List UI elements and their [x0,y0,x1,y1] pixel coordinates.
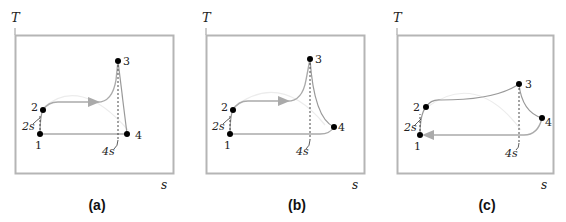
x-axis-label: s [352,178,358,192]
point-1-label: 1 [224,140,231,151]
panel-a: T s 1 2 3 4 2s 4s (a) [0,0,190,222]
point-1-label: 1 [414,141,421,152]
annotation-2s: 2s [404,122,417,133]
caption-a: (a) [82,197,112,213]
point-2-label: 2 [31,102,38,113]
point-2-label: 2 [413,102,420,113]
point-2-label: 2 [221,102,228,113]
annotation-4s: 4s [296,146,309,157]
point-3-label: 3 [123,56,130,67]
y-axis-label: T [202,10,211,25]
x-axis-label: s [541,178,547,192]
point-1-label: 1 [35,140,42,151]
y-axis-label: T [393,10,402,25]
panel-b: T s 1 2 3 4 2s 4s (b) [190,0,380,222]
x-axis-label: s [161,178,167,192]
annotation-4s: 4s [102,146,115,157]
point-4-label: 4 [545,117,552,128]
panel-c: T s 1 2 3 4 2s 4s (c) [376,0,566,222]
annotation-4s: 4s [505,148,518,159]
annotation-2s: 2s [22,121,35,132]
point-4-label: 4 [135,130,142,141]
point-3-label: 3 [525,79,532,90]
y-axis-label: T [11,10,20,25]
annotation-2s: 2s [212,121,225,132]
point-3-label: 3 [315,54,322,65]
caption-b: (b) [282,197,312,213]
point-4-label: 4 [338,122,345,133]
ts-diagram-c [376,0,566,222]
caption-c: (c) [472,197,502,213]
